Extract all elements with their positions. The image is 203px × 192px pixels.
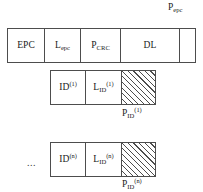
lid-1-field: LID(1) [86, 70, 122, 105]
lid-n-field-sup: (n) [106, 152, 113, 159]
id-1-field: ID(1) [50, 70, 86, 105]
pid-1-label-sup: (1) [134, 106, 141, 113]
pid-n-field [122, 142, 156, 177]
id-1-field-label: ID(1) [59, 83, 77, 93]
row-continuation-ellipsis: ... [27, 158, 36, 168]
pid-1-label: PID(1) [122, 109, 142, 119]
pid-1-field [122, 70, 156, 105]
lepc-field-sub: epc [61, 44, 70, 51]
pepc-field [180, 28, 196, 63]
pcrc-field-label: PCRC [91, 41, 110, 51]
pid-n-label: PID(n) [122, 180, 142, 190]
id-n-field-sup: (n) [69, 152, 76, 159]
pepc-label-sub: epc [173, 6, 182, 13]
id-1-field-sup: (1) [69, 80, 76, 87]
epc-field-label: EPC [17, 41, 35, 51]
pepc-label: Pepc [168, 3, 182, 13]
dl-field-label: DL [144, 41, 157, 51]
dl-field: DL [121, 28, 180, 63]
pid-n-label-sub: ID [127, 183, 134, 190]
lepc-field: Lepc [45, 28, 81, 63]
id-n-field-label: ID(n) [59, 155, 77, 165]
pid-1-label-sub: ID [127, 112, 134, 119]
lid-n-field: LID(n) [86, 142, 122, 177]
id-n-field: ID(n) [50, 142, 86, 177]
pcrc-field-sub: CRC [97, 44, 110, 51]
packet-structure-diagram: Pepc EPC Lepc PCRC DL ID(1) LID(1) PID(1… [0, 0, 203, 192]
lid-n-field-label: LID(n) [93, 155, 113, 165]
lid-1-field-label: LID(1) [93, 83, 113, 93]
epc-field: EPC [7, 28, 45, 63]
pcrc-field: PCRC [81, 28, 121, 63]
lid-1-field-sup: (1) [106, 80, 113, 87]
lepc-field-label: Lepc [55, 41, 70, 51]
pid-n-label-sup: (n) [134, 177, 141, 184]
